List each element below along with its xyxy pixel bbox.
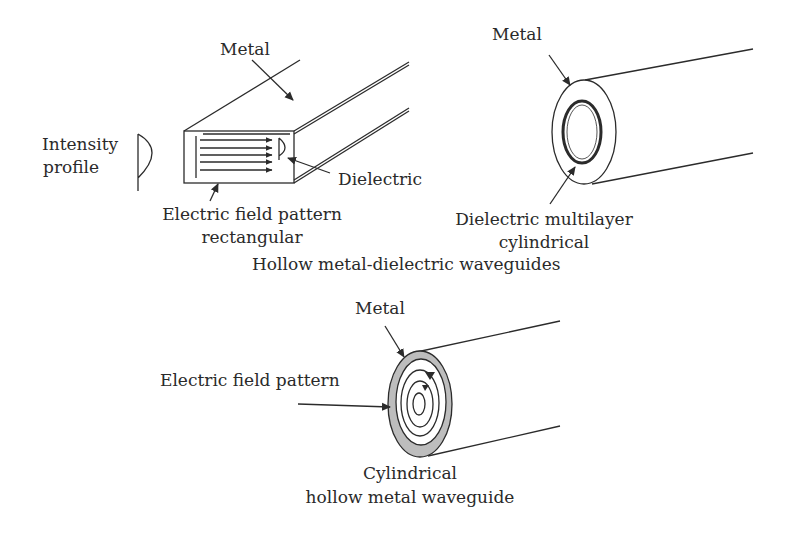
intensity-profile-icon bbox=[138, 134, 152, 191]
waveguide-diagram: Metal Intensity profile Dielectric Elect… bbox=[0, 0, 785, 533]
multilayer-dielectric-label-2: cylindrical bbox=[444, 232, 644, 253]
intensity-profile-label-1: Intensity bbox=[42, 134, 118, 155]
rect-top-edge bbox=[184, 60, 300, 131]
multilayer-waveguide bbox=[549, 49, 753, 204]
hollow-caption-2: hollow metal waveguide bbox=[290, 487, 530, 508]
rect-field-pattern-label-1: Electric field pattern bbox=[148, 204, 356, 225]
field-pattern-arrow bbox=[210, 184, 218, 201]
hollow-caption-1: Cylindrical bbox=[290, 463, 530, 484]
metal-arrow bbox=[385, 326, 404, 357]
metal-arrow bbox=[549, 55, 570, 85]
inner-intensity-profile bbox=[279, 138, 285, 160]
field-pattern-arrow bbox=[298, 404, 390, 407]
rect-field-arrows bbox=[200, 140, 272, 170]
rect-metal-label: Metal bbox=[220, 39, 270, 60]
multilayer-dielectric-label-1: Dielectric multilayer bbox=[444, 209, 644, 230]
hollow-metal-label: Metal bbox=[355, 298, 405, 319]
rect-front-face bbox=[184, 131, 294, 183]
rect-field-pattern-label-2: rectangular bbox=[148, 227, 356, 248]
hollow-field-pattern-label: Electric field pattern bbox=[160, 370, 340, 391]
rect-dielectric-label: Dielectric bbox=[338, 169, 422, 190]
dielectric-arrow bbox=[550, 167, 575, 204]
metal-arrow bbox=[252, 60, 293, 100]
intensity-profile-label-2: profile bbox=[43, 157, 99, 178]
figure-title: Hollow metal-dielectric waveguides bbox=[252, 254, 560, 275]
multilayer-metal-label: Metal bbox=[492, 24, 542, 45]
